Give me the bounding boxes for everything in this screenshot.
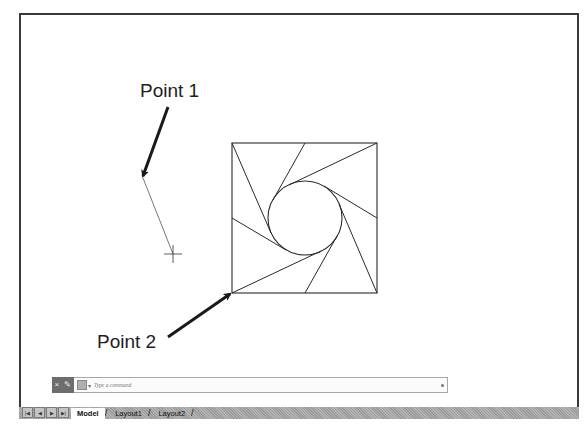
wrench-icon[interactable]: ✎ (64, 380, 71, 389)
tangent-line (339, 204, 377, 293)
tangent-line (232, 251, 321, 293)
center-circle (268, 181, 342, 255)
prev-tab-button[interactable]: ◀ (34, 407, 45, 418)
command-history-dropdown-icon[interactable] (441, 384, 444, 387)
tab-separator: / (105, 408, 108, 419)
tab-separator: / (191, 408, 194, 419)
chevron-down-icon[interactable]: ▾ (88, 382, 91, 389)
drawing-canvas (0, 0, 585, 434)
point-1-label: Point 1 (140, 80, 199, 102)
first-tab-button[interactable]: |◀ (22, 407, 33, 418)
rubber-band-line (143, 178, 173, 254)
point-2-label: Point 2 (97, 331, 156, 353)
command-line: × ✎ ▾ (52, 377, 448, 393)
tab-separator: / (148, 408, 151, 419)
tangent-line (232, 143, 271, 233)
square-outline (232, 143, 377, 293)
tangent-line (232, 218, 286, 250)
arrow-point1-icon (143, 107, 168, 176)
close-icon[interactable]: × (55, 380, 60, 389)
command-line-buttons: × ✎ (52, 377, 74, 393)
command-prompt-icon[interactable] (77, 380, 87, 390)
layout-tab-bar: |◀ ◀ ▶ ▶| Model / Layout1 / Layout2 / (19, 407, 579, 419)
tab-model[interactable]: Model (71, 408, 105, 419)
next-tab-button[interactable]: ▶ (46, 407, 57, 418)
tangent-line (273, 143, 305, 200)
tab-layout1[interactable]: Layout1 (109, 408, 148, 419)
arrow-point2-icon (168, 294, 230, 337)
tangent-line (289, 143, 377, 185)
command-input[interactable] (94, 379, 441, 391)
tangent-line (324, 186, 377, 218)
tab-layout2[interactable]: Layout2 (152, 408, 191, 419)
tangent-line (305, 236, 337, 293)
last-tab-button[interactable]: ▶| (58, 407, 69, 418)
